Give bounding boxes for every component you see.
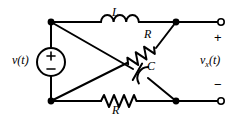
resistor-diagonal-label: R [144, 28, 151, 40]
resistor-bottom-symbol [101, 95, 139, 107]
wire-diagonal-c-lower [148, 78, 176, 101]
source-label: v(t) [12, 54, 29, 66]
output-plus-sign: + [214, 31, 222, 44]
wire-group [51, 22, 219, 101]
node-bottom-left [48, 98, 55, 105]
wire-diagonal-r-upper [156, 22, 176, 48]
output-voltage-label: vx(t) [200, 54, 220, 69]
node-top-right [173, 19, 180, 26]
terminal-top-open [218, 19, 224, 25]
inductor-symbol [101, 15, 139, 22]
circuit-diagram: L R C R v(t) vx(t) + − [0, 0, 242, 122]
resistor-bottom-label: R [112, 104, 119, 116]
node-bottom-right [173, 98, 180, 105]
capacitor-label: C [147, 60, 155, 72]
output-minus-sign: − [214, 78, 222, 91]
node-top-left [48, 19, 55, 26]
inductor-label: L [112, 6, 119, 18]
capacitor-symbol [133, 64, 148, 84]
terminal-bottom-open [218, 98, 224, 104]
output-voltage-argument: (t) [209, 53, 220, 67]
